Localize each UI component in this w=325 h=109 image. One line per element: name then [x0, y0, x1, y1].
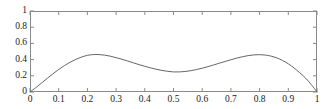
x-tick-label: 0.5 — [168, 95, 180, 105]
y-tick-label: 0.4 — [15, 55, 27, 65]
y-tick-label: 0.2 — [15, 71, 27, 81]
x-tick-label: 0.3 — [110, 95, 122, 105]
y-axis-tick-labels: 00.20.40.60.81 — [0, 0, 27, 109]
y-tick-label: 0.8 — [15, 22, 27, 32]
x-tick-label: 0 — [28, 95, 33, 105]
line-series-curve — [30, 54, 317, 92]
x-tick-label: 0.9 — [282, 95, 294, 105]
x-tick-label: 0.2 — [81, 95, 93, 105]
y-tick-label: 1 — [22, 6, 27, 16]
tick-marks — [30, 11, 317, 92]
figure-canvas: Deltat 00.20.40.60.81 00.10.20.30.40.50.… — [0, 0, 325, 109]
plot-area — [30, 11, 317, 92]
x-tick-label: 0.7 — [225, 95, 237, 105]
x-tick-label: 0.6 — [196, 95, 208, 105]
x-tick-label: 0.1 — [53, 95, 65, 105]
x-tick-label: 0.4 — [139, 95, 151, 105]
y-tick-label: 0.6 — [15, 38, 27, 48]
x-tick-label: 0.8 — [254, 95, 266, 105]
data-series-group — [30, 54, 317, 92]
x-tick-label: 1 — [315, 95, 320, 105]
x-axis-tick-labels: 00.10.20.30.40.50.60.70.80.91 — [0, 95, 325, 109]
